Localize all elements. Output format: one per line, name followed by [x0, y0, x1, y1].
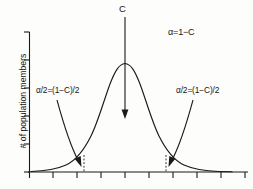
distribution-curve: [31, 64, 232, 172]
distribution-figure: C α=1−C α/2=(1−C)/2 α/2=(1−C)/2 # of pop…: [0, 0, 253, 189]
alpha-right-tail-label: α/2=(1−C)/2: [176, 86, 219, 94]
alpha-total-label: α=1−C: [168, 28, 194, 37]
y-axis-label: # of population members: [18, 31, 28, 171]
center-confidence-label: C: [119, 4, 126, 14]
center-arrow: [122, 17, 129, 119]
left-tail-arrow: [57, 100, 82, 167]
alpha-left-tail-label: α/2=(1−C)/2: [36, 86, 79, 94]
right-tail-arrow: [169, 100, 194, 167]
x-axis-ticks: [30, 172, 246, 178]
